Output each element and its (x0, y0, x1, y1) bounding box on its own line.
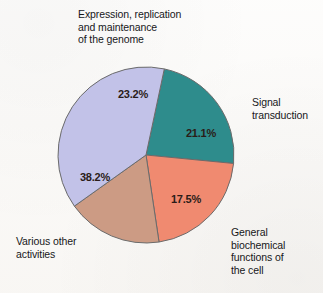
pie-label-signal: 21.1% (186, 127, 217, 139)
pie-label-general: 17.5% (171, 193, 202, 205)
callout-label-various: Various other activities (16, 235, 126, 260)
pie-label-genome: 23.2% (118, 88, 149, 100)
callout-label-general: General biochemical functions of the cel… (231, 226, 323, 276)
callout-label-genome: Expression, replication and maintenance … (78, 8, 228, 46)
pie-chart-figure: 23.2% 21.1% 17.5% 38.2% Expression, repl… (0, 0, 323, 293)
pie-label-various: 38.2% (80, 171, 111, 183)
callout-label-signal: Signal transduction (252, 96, 322, 121)
